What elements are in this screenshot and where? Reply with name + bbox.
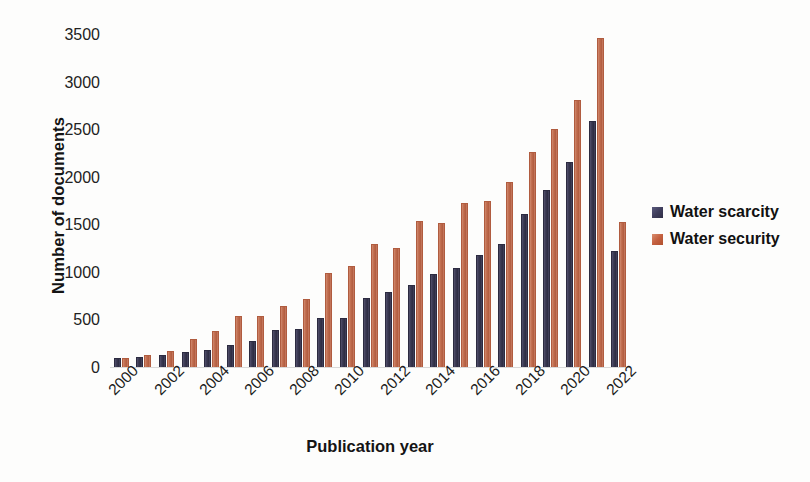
bar-water-scarcity[interactable] [453, 268, 460, 368]
bar-water-security[interactable] [371, 244, 378, 368]
bar-water-security[interactable] [325, 273, 332, 368]
bar-group [404, 35, 427, 368]
bar-group [381, 35, 404, 368]
bar-water-scarcity[interactable] [295, 329, 302, 368]
x-axis-tick-labels: 2000200220042006200820102012201420162018… [110, 368, 630, 428]
legend-entry[interactable]: Water scarcity [652, 203, 780, 221]
bar-water-scarcity[interactable] [430, 274, 437, 368]
y-tick-label: 3000 [42, 74, 100, 92]
bar-water-scarcity[interactable] [408, 285, 415, 368]
legend-swatch-icon [652, 207, 663, 218]
x-axis-title: Publication year [110, 437, 630, 456]
y-axis-tick-labels: 0500100015002000250030003500 [42, 0, 100, 482]
bar-water-scarcity[interactable] [182, 352, 189, 368]
bar-water-scarcity[interactable] [227, 345, 234, 368]
plot-area [110, 35, 630, 368]
bar-water-security[interactable] [619, 222, 626, 368]
y-tick-label: 2000 [42, 169, 100, 187]
legend-entry[interactable]: Water security [652, 230, 780, 248]
bar-water-security[interactable] [574, 100, 581, 368]
x-tick-label: 2020 [557, 362, 594, 399]
bar-water-security[interactable] [190, 339, 197, 368]
bar-water-security[interactable] [280, 306, 287, 368]
bar-group [178, 35, 201, 368]
bar-group [313, 35, 336, 368]
bar-water-security[interactable] [235, 316, 242, 368]
bar-group [268, 35, 291, 368]
x-tick-label: 2018 [512, 362, 549, 399]
bar-water-scarcity[interactable] [340, 318, 347, 368]
bar-water-security[interactable] [597, 38, 604, 368]
bar-water-scarcity[interactable] [385, 292, 392, 368]
y-tick-label: 0 [42, 359, 100, 377]
bar-group [517, 35, 540, 368]
bar-group [359, 35, 382, 368]
x-tick-label: 2004 [196, 362, 233, 399]
bar-water-scarcity[interactable] [566, 162, 573, 368]
bar-water-scarcity[interactable] [249, 341, 256, 368]
bar-water-scarcity[interactable] [204, 350, 211, 368]
y-tick-label: 500 [42, 311, 100, 329]
bar-water-scarcity[interactable] [589, 121, 596, 368]
bar-water-security[interactable] [393, 248, 400, 368]
bar-group [427, 35, 450, 368]
bar-group [200, 35, 223, 368]
bar-group [585, 35, 608, 368]
bar-group [291, 35, 314, 368]
bar-water-scarcity[interactable] [317, 318, 324, 368]
bar-water-security[interactable] [303, 299, 310, 368]
bar-water-security[interactable] [461, 203, 468, 368]
bar-water-scarcity[interactable] [521, 214, 528, 368]
x-tick-label: 2014 [422, 362, 459, 399]
bar-group [540, 35, 563, 368]
bar-water-scarcity[interactable] [363, 298, 370, 368]
bar-water-security[interactable] [257, 316, 264, 368]
bar-water-security[interactable] [348, 266, 355, 368]
x-tick-label: 2022 [602, 362, 639, 399]
bar-water-security[interactable] [529, 152, 536, 368]
x-tick-label: 2006 [241, 362, 278, 399]
bar-chart: Number of documents 05001000150020002500… [0, 0, 810, 482]
bar-group [472, 35, 495, 368]
bar-group [336, 35, 359, 368]
bar-water-security[interactable] [506, 182, 513, 368]
x-tick-label: 2010 [331, 362, 368, 399]
bar-group [449, 35, 472, 368]
bar-water-scarcity[interactable] [611, 251, 618, 368]
bar-group [155, 35, 178, 368]
bar-water-scarcity[interactable] [498, 244, 505, 368]
y-tick-label: 1000 [42, 264, 100, 282]
bar-group [494, 35, 517, 368]
bar-group [133, 35, 156, 368]
x-tick-label: 2016 [467, 362, 504, 399]
bar-groups [110, 35, 630, 368]
x-tick-label: 2008 [286, 362, 323, 399]
legend-swatch-icon [652, 234, 663, 245]
bar-group [110, 35, 133, 368]
x-tick-label: 2000 [105, 362, 142, 399]
bar-group [562, 35, 585, 368]
x-tick-label: 2012 [376, 362, 413, 399]
legend-label: Water security [670, 230, 780, 248]
bar-water-security[interactable] [416, 221, 423, 368]
bar-water-scarcity[interactable] [272, 330, 279, 368]
y-tick-label: 2500 [42, 121, 100, 139]
chart-legend: Water scarcityWater security [652, 203, 780, 248]
bar-water-security[interactable] [438, 223, 445, 368]
bar-water-scarcity[interactable] [543, 190, 550, 368]
bar-group [223, 35, 246, 368]
bar-water-security[interactable] [551, 129, 558, 368]
bar-water-scarcity[interactable] [476, 255, 483, 368]
bar-group [607, 35, 630, 368]
bar-water-scarcity[interactable] [159, 355, 166, 368]
bar-group [246, 35, 269, 368]
y-tick-label: 1500 [42, 216, 100, 234]
y-tick-label: 3500 [42, 26, 100, 44]
bar-water-security[interactable] [484, 201, 491, 368]
legend-label: Water scarcity [670, 203, 779, 221]
x-tick-label: 2002 [150, 362, 187, 399]
